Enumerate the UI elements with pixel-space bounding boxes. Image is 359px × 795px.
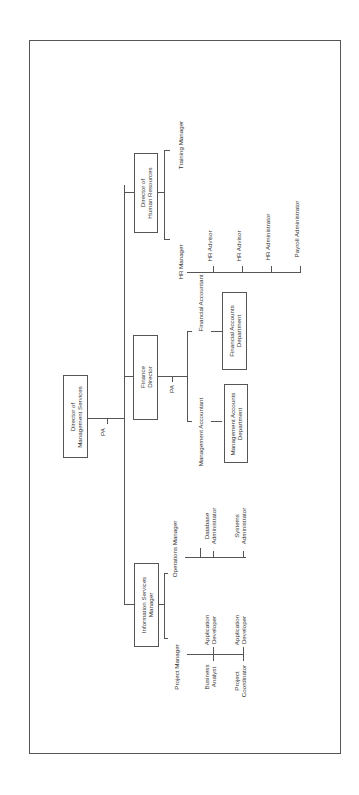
root-pa-label: PA <box>99 428 106 436</box>
connector <box>187 654 244 655</box>
role-project-manager: Project Manager <box>173 644 180 689</box>
node-director-human-resources-label: Director of Human Resources <box>139 167 153 218</box>
connector <box>271 266 272 272</box>
connector <box>185 557 246 558</box>
connector <box>164 150 170 151</box>
connector <box>243 551 244 557</box>
role-database-administrator: Database Administrator <box>203 508 217 544</box>
connector <box>187 331 192 332</box>
role-application-developer: Application Developer <box>203 615 217 645</box>
connector <box>164 573 168 574</box>
connector <box>187 331 188 422</box>
connector <box>187 421 192 422</box>
connector <box>213 647 214 661</box>
node-financial-accounts-department-label: Financial Accounts Department <box>227 305 241 357</box>
connector <box>164 239 170 240</box>
role-hr-advisor: HR Advisor <box>235 231 242 262</box>
role-business-analyst: Business Analyst <box>203 664 217 689</box>
role-hr-advisor: HR Advisor <box>206 231 213 262</box>
connector <box>243 647 244 661</box>
connector <box>172 376 173 382</box>
connector <box>107 418 108 424</box>
node-management-accounts-department-label: Management Accounts Department <box>229 392 243 455</box>
main-spine <box>124 185 125 605</box>
connector <box>88 418 124 419</box>
role-payroll-administrator: Payroll Administrator <box>293 201 300 258</box>
role-systems-administrator: Systems Administrator <box>233 508 247 544</box>
role-training-manager: Training Manager <box>177 121 184 169</box>
role-hr-manager: HR Manager <box>177 244 184 279</box>
connector <box>287 272 301 273</box>
connector <box>211 421 222 422</box>
role-application-developer: Application Developer <box>233 615 247 645</box>
connector <box>242 266 243 272</box>
role-hr-administrator: HR Administrator <box>264 214 271 261</box>
connector <box>213 266 214 272</box>
connector <box>187 272 288 273</box>
role-financial-accountant: Financial Accountant <box>197 274 204 331</box>
role-operations-manager: Operations Manager <box>171 521 178 577</box>
connector <box>211 331 222 332</box>
node-finance-director-label: Finance Director <box>138 366 152 388</box>
connector <box>158 376 188 377</box>
connector <box>124 192 134 193</box>
node-director-management-services-label: Director of Management Services <box>68 386 82 448</box>
connector <box>164 573 165 639</box>
role-project-coordinator: Project Coordinator <box>233 665 247 697</box>
finance-pa-label: PA <box>168 385 175 393</box>
role-management-accountant: Management Accountant <box>197 398 204 466</box>
connector <box>213 551 214 557</box>
node-information-services-manager-label: Information Services Manager <box>139 577 153 633</box>
connector <box>164 638 168 639</box>
connector <box>164 150 165 240</box>
